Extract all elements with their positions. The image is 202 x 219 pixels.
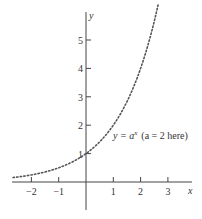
exponential-plot: −2−1123 12345 y x y = ax(a = 2 here) [0,0,202,219]
curve-label: y = ax(a = 2 here) [112,129,188,142]
y-tick-label: 2 [78,120,83,131]
x-tick-label: −2 [26,186,37,197]
y-ticks: 12345 [78,35,91,160]
y-tick-label: 3 [78,92,83,103]
y-axis-label: y [88,10,94,21]
y-tick-label: 4 [78,63,83,74]
x-tick-label: −1 [53,186,64,197]
x-ticks: −2−1123 [26,177,170,197]
y-tick-label: 5 [78,35,83,46]
x-tick-label: 3 [165,186,170,197]
x-tick-label: 2 [138,186,143,197]
x-tick-label: 1 [111,186,116,197]
x-axis-label: x [187,185,193,196]
